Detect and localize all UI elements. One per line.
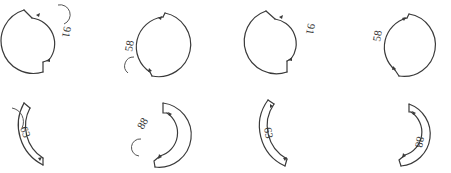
figure-1-label: 91 (60, 26, 74, 39)
figure-2-notched-circle: 58 (122, 13, 191, 77)
figure-1-notched-circle: 91 (1, 5, 74, 74)
figure-2-label: 58 (122, 39, 136, 52)
figure-3-notched-circle: 91 (244, 11, 318, 74)
figure-6-label: 88 (134, 115, 150, 131)
diagram-canvas: 91 58 91 58 (0, 0, 451, 173)
figure-4-label: 58 (370, 29, 384, 42)
figure-7-label: 63 (262, 126, 276, 139)
figure-4-notched-circle: 58 (370, 14, 435, 76)
figure-8-label: 88 (413, 136, 427, 149)
figure-5-thick-arc: 63 (12, 103, 43, 165)
figure-7-thick-arc: 63 (259, 100, 287, 166)
figure-3-label: 91 (304, 23, 318, 36)
figure-8-thick-arc: 88 (399, 104, 430, 166)
figure-6-thick-arc: 88 (131, 103, 191, 167)
